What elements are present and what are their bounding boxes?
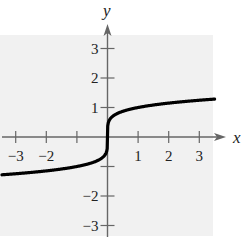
y-axis-label: y (101, 1, 111, 20)
x-axis-label: x (232, 128, 241, 147)
x-tick-label: 3 (196, 148, 204, 164)
x-tick-label: −2 (38, 148, 54, 164)
y-tick-label: −3 (83, 218, 99, 234)
function-graph: −3−2123−3−2123 x y (0, 0, 246, 248)
x-tick-label: 1 (134, 148, 142, 164)
y-tick-label: 3 (91, 41, 99, 57)
y-tick-label: 2 (91, 70, 99, 86)
y-tick-label: −2 (83, 188, 99, 204)
x-tick-label: −3 (8, 148, 24, 164)
y-tick-label: 1 (91, 100, 99, 116)
x-tick-label: 2 (165, 148, 173, 164)
